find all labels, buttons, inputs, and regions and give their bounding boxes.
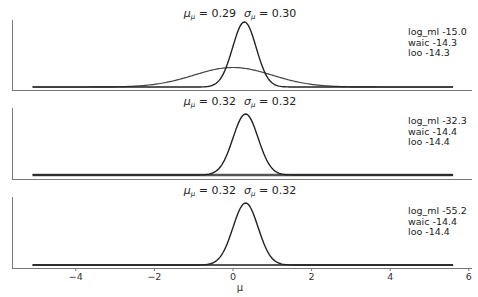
panel-1-mu-value: = 0.29 [195,7,236,20]
panel-3-posterior-curve [33,203,454,265]
posterior-comparison-figure: μμ = 0.29σμ = 0.30 log_ml -15.0 waic -14… [0,0,478,297]
panel-1-waic: waic -14.3 [408,37,457,48]
panel-3-title: μμ = 0.32σμ = 0.32 [183,184,296,198]
panel-2-posterior-curve [33,114,454,175]
panel-1-prior-curve [33,68,454,88]
panel-3: μμ = 0.32σμ = 0.32 log_ml -55.2 waic -14… [12,184,472,293]
panel-3-sigma-value: = 0.32 [255,184,296,197]
x-tick-label: 4 [387,271,393,282]
panel-2-sigma-value: = 0.32 [255,95,296,108]
panel-3-mu-value: = 0.32 [195,184,236,197]
panel-3-waic: waic -14.4 [408,216,457,227]
x-axis-ticks: −4−20246 [69,269,472,283]
panel-1-title: μμ = 0.29σμ = 0.30 [183,7,296,21]
panel-1-posterior-curve [33,22,454,87]
panel-2-title: μμ = 0.32σμ = 0.32 [183,95,296,109]
panel-2-loo: loo -14.4 [408,136,450,147]
panel-1-sigma-value: = 0.30 [255,7,296,20]
x-axis-label: μ [237,282,244,293]
panel-3-log-ml: log_ml -55.2 [408,205,467,216]
x-tick-label: −2 [147,271,161,282]
panel-3-loo: loo -14.4 [408,226,450,237]
panel-2: μμ = 0.32σμ = 0.32 log_ml -32.3 waic -14… [12,95,472,180]
x-tick-label: 0 [230,271,236,282]
panel-1-loo: loo -14.3 [408,47,450,58]
panel-2-mu-value: = 0.32 [195,95,236,108]
panel-2-waic: waic -14.4 [408,126,457,137]
panel-1: μμ = 0.29σμ = 0.30 log_ml -15.0 waic -14… [12,7,472,91]
x-tick-label: 6 [466,271,472,282]
panel-2-log-ml: log_ml -32.3 [408,115,467,126]
panel-1-log-ml: log_ml -15.0 [408,26,467,37]
x-tick-label: −4 [69,271,83,282]
x-tick-label: 2 [309,271,315,282]
